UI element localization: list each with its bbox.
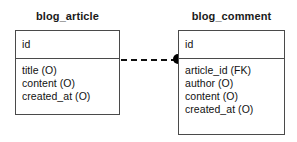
entity-title-blog-comment: blog_comment	[178, 10, 285, 22]
primary-key-label-blog-comment: id	[185, 38, 193, 51]
entity-title-blog-article: blog_article	[15, 10, 120, 22]
attribute-row: article_id (FK)	[185, 64, 278, 77]
attribute-row: created_at (O)	[22, 90, 113, 103]
relationship-line-article-to-comment	[121, 59, 177, 61]
primary-key-row-blog-article: id	[16, 31, 119, 59]
attribute-row: content (O)	[22, 77, 113, 90]
primary-key-row-blog-comment: id	[179, 31, 284, 59]
attribute-row: created_at (O)	[185, 103, 278, 116]
attribute-row: author (O)	[185, 77, 278, 90]
entity-box-blog-comment[interactable]: id article_id (FK) author (O) content (O…	[178, 30, 285, 135]
attribute-row: title (O)	[22, 64, 113, 77]
entity-box-blog-article[interactable]: id title (O) content (O) created_at (O)	[15, 30, 120, 115]
attribute-list-blog-article: title (O) content (O) created_at (O)	[16, 59, 119, 103]
attribute-row: content (O)	[185, 90, 278, 103]
primary-key-label-blog-article: id	[22, 38, 30, 51]
er-diagram-canvas: blog_article id title (O) content (O) cr…	[0, 0, 297, 142]
attribute-list-blog-comment: article_id (FK) author (O) content (O) c…	[179, 59, 284, 116]
